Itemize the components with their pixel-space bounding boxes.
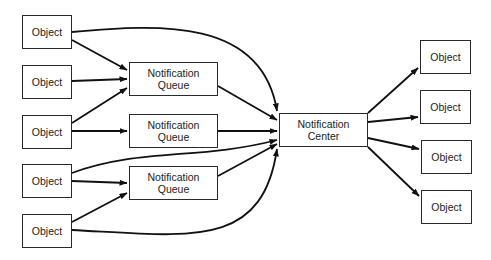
connector-arrows [0, 0, 491, 260]
source-object-box: Object [22, 15, 72, 49]
notification-center-box: Notification Center [279, 113, 368, 147]
arrow-src3-to-q1 [72, 88, 127, 123]
arrow-src2-to-q1 [72, 79, 127, 81]
arrow-src4-to-q3 [72, 181, 127, 183]
observer-object-box: Object [421, 140, 472, 174]
notification-queue-box: Notification Queue [129, 62, 218, 96]
observer-object-box: Object [420, 40, 471, 74]
arrow-src1-to-q1 [72, 40, 127, 70]
source-object-box: Object [22, 214, 72, 248]
notification-queue-box: Notification Queue [129, 114, 218, 148]
source-object-box: Object [22, 164, 72, 198]
notification-queue-box: Notification Queue [129, 166, 218, 200]
arrow-center-to-dst3 [368, 138, 419, 149]
arrow-center-to-dst4 [368, 147, 419, 196]
arrow-center-to-dst2 [368, 117, 418, 122]
notification-flow-diagram: ObjectObjectObjectObjectObjectNotificati… [0, 0, 491, 260]
arrow-src5-to-q3 [72, 193, 127, 222]
source-object-box: Object [22, 115, 72, 149]
source-object-box: Object [22, 65, 72, 99]
arrow-center-to-dst1 [368, 68, 418, 113]
arrow-q1-to-center [218, 86, 277, 120]
observer-object-box: Object [421, 190, 472, 224]
observer-object-box: Object [420, 90, 471, 124]
